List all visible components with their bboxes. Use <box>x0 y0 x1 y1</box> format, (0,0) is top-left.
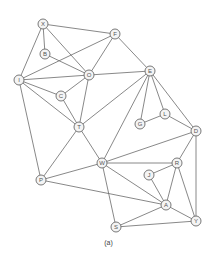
node-layer: XFBOEICGLTDWRJPAYS <box>14 19 201 232</box>
edge-O-T <box>79 75 89 127</box>
node-F: F <box>110 29 120 39</box>
edge-T-W <box>79 127 102 163</box>
node-label: D <box>194 128 199 134</box>
node-O: O <box>84 70 94 80</box>
node-B: B <box>40 49 50 59</box>
node-X: X <box>38 19 48 29</box>
edge-F-E <box>115 34 150 71</box>
node-label: A <box>164 202 168 208</box>
node-A: A <box>161 200 171 210</box>
edge-R-A <box>166 163 177 205</box>
node-J: J <box>144 170 154 180</box>
edge-X-I <box>19 24 43 80</box>
figure-caption: (a) <box>0 239 217 246</box>
node-S: S <box>111 222 121 232</box>
node-label: C <box>59 93 64 99</box>
node-D: D <box>191 126 201 136</box>
node-W: W <box>97 158 107 168</box>
node-label: X <box>41 21 45 27</box>
node-label: P <box>39 177 43 183</box>
edge-W-S <box>102 163 116 227</box>
node-label: S <box>114 224 118 230</box>
node-label: G <box>138 121 143 127</box>
node-label: J <box>148 172 151 178</box>
edge-W-P <box>41 163 102 180</box>
edge-E-G <box>140 71 150 124</box>
node-R: R <box>172 158 182 168</box>
node-Y: Y <box>191 216 201 226</box>
node-T: T <box>74 122 84 132</box>
graph-svg: XFBOEICGLTDWRJPAYS <box>0 0 217 264</box>
node-label: O <box>87 72 92 78</box>
node-I: I <box>14 75 24 85</box>
edge-O-E <box>89 71 150 75</box>
node-G: G <box>135 119 145 129</box>
graph-diagram: XFBOEICGLTDWRJPAYS <box>0 0 217 264</box>
node-label: F <box>113 31 117 37</box>
edge-D-R <box>177 131 196 163</box>
edge-T-P <box>41 127 79 180</box>
node-label: R <box>175 160 180 166</box>
node-label: B <box>43 51 47 57</box>
node-P: P <box>36 175 46 185</box>
edge-X-F <box>43 24 115 34</box>
node-label: T <box>77 124 81 130</box>
edge-I-O <box>19 75 89 80</box>
node-L: L <box>160 109 170 119</box>
node-C: C <box>56 91 66 101</box>
edge-I-C <box>19 80 61 96</box>
edge-E-L <box>150 71 165 114</box>
node-label: Y <box>194 218 198 224</box>
node-E: E <box>145 66 155 76</box>
node-label: E <box>148 68 152 74</box>
edge-E-D <box>150 71 196 131</box>
node-label: W <box>99 160 105 166</box>
